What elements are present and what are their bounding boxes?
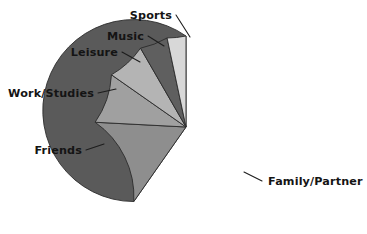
pie-label-work-studies: Work/Studies <box>8 87 94 100</box>
pie-label-friends: Friends <box>34 144 82 157</box>
pie-label-leisure: Leisure <box>71 46 119 59</box>
pie-chart-svg: Family/PartnerFriendsWork/StudiesLeisure… <box>0 0 367 234</box>
pie-label-family-partner: Family/Partner <box>268 175 363 188</box>
leader-line-family-partner <box>244 172 262 181</box>
pie-label-sports: Sports <box>130 9 172 22</box>
pie-chart: Family/PartnerFriendsWork/StudiesLeisure… <box>0 0 367 234</box>
pie-label-music: Music <box>107 30 144 43</box>
